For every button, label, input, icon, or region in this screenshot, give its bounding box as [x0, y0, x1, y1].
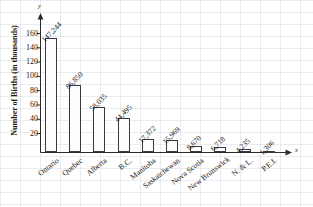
y-tick-label: 20 [16, 129, 38, 138]
y-axis-letter: y [38, 2, 41, 9]
y-tick-label: 120 [16, 57, 38, 66]
y-tick-label: 60 [16, 100, 38, 109]
y-tick-label: 140 [16, 43, 38, 52]
bar-quebec[interactable] [69, 85, 81, 152]
y-tick-label: 100 [16, 71, 38, 80]
bar-chart: Number of Births (in thousands) y x 160 … [0, 0, 313, 207]
y-tick-label: 40 [16, 114, 38, 123]
x-axis-letter: x [295, 146, 298, 153]
y-tick-label: 160 [16, 29, 38, 38]
y-tick-label: 80 [16, 86, 38, 95]
bar-ontario[interactable] [45, 38, 57, 152]
bar-alberta[interactable] [93, 107, 105, 152]
